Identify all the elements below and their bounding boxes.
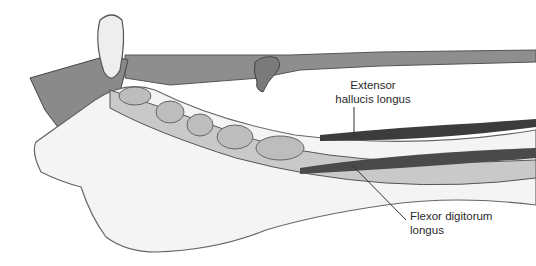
label-line: Flexor digitorum	[410, 209, 520, 223]
label-extensor-hallucis-longus: Extensor hallucis longus	[323, 78, 423, 106]
label-line: Extensor	[323, 78, 423, 92]
label-line: longus	[410, 223, 520, 237]
anatomy-figure: Extensor hallucis longus Flexor digitoru…	[0, 0, 536, 266]
label-line: hallucis longus	[323, 92, 423, 106]
label-flexor-digitorum-longus: Flexor digitorum longus	[410, 209, 520, 237]
